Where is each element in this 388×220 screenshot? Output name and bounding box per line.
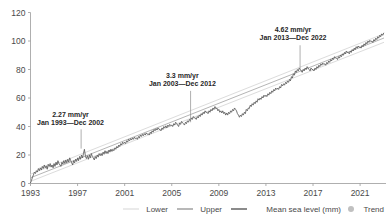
y-axis-tick-label: 80 bbox=[16, 65, 26, 75]
y-axis-tick-label: 100 bbox=[11, 36, 25, 46]
annotations-group: 2.27 mm/yrJan 1993—Dec 20023.3 mm/yrJan … bbox=[37, 26, 327, 148]
annotation-1993-2002-rate: 2.27 mm/yr bbox=[52, 111, 89, 119]
x-axis-tick-label: 2021 bbox=[351, 188, 370, 198]
y-axis: 020406080100120 bbox=[11, 8, 30, 189]
x-axis-tick-label: 2005 bbox=[162, 188, 181, 198]
x-axis-tick-label: 1997 bbox=[68, 188, 87, 198]
annotation-2003-2012-period: Jan 2003—Dec 2012 bbox=[149, 80, 216, 87]
x-axis-tick-label: 2013 bbox=[256, 188, 275, 198]
legend-label-trend: Trend bbox=[363, 205, 384, 214]
x-axis-tick-label: 1993 bbox=[21, 188, 40, 198]
y-axis-tick-label: 40 bbox=[16, 122, 26, 132]
chart-legend: TrendMean sea level (mm)UpperLower bbox=[123, 205, 384, 214]
annotation-2013-2022-period: Jan 2013—Dec 2022 bbox=[260, 34, 327, 41]
legend-label-upper: Upper bbox=[200, 205, 222, 214]
series-line-trend bbox=[31, 38, 384, 178]
legend-label-mean-sea-level-mm: Mean sea level (mm) bbox=[266, 205, 341, 214]
x-axis-tick-label: 2009 bbox=[209, 188, 228, 198]
x-axis-tick-label: 2017 bbox=[304, 188, 323, 198]
annotation-2003-2012-rate: 3.3 mm/yr bbox=[166, 72, 199, 80]
data-series-group bbox=[31, 33, 384, 183]
chart-plot-area: 020406080100120 199319972001200520092013… bbox=[0, 0, 388, 220]
sea-level-chart: 020406080100120 199319972001200520092013… bbox=[0, 0, 388, 220]
x-axis: 19931997200120052009201320172021 bbox=[21, 184, 386, 198]
legend-swatch-trend-dot bbox=[348, 206, 354, 212]
y-axis-tick-label: 20 bbox=[16, 150, 26, 160]
annotation-1993-2002-period: Jan 1993—Dec 2002 bbox=[37, 119, 104, 126]
y-axis-tick-label: 60 bbox=[16, 93, 26, 103]
y-axis-tick-label: 120 bbox=[11, 8, 25, 18]
x-axis-tick-label: 2001 bbox=[115, 188, 134, 198]
annotation-2013-2022-rate: 4.62 mm/yr bbox=[275, 26, 312, 34]
legend-label-lower: Lower bbox=[146, 205, 168, 214]
